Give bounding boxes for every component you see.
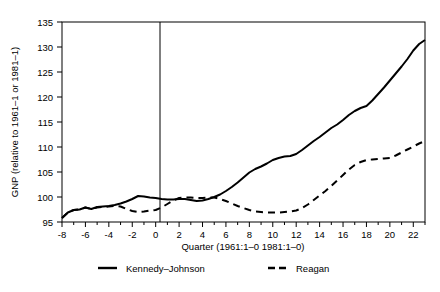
x-tick-label: 16 — [338, 229, 349, 240]
x-tick-label: 2 — [176, 229, 181, 240]
x-tick-label: -8 — [58, 229, 66, 240]
x-tick-label: 4 — [200, 229, 205, 240]
legend-label-reagan: Reagan — [296, 263, 329, 274]
y-tick-label: 135 — [37, 17, 53, 28]
y-tick-label: 110 — [38, 142, 53, 153]
y-tick-label: 130 — [37, 42, 53, 53]
y-tick-label: 125 — [37, 67, 53, 78]
x-tick-label: 8 — [247, 229, 252, 240]
x-tick-label: 20 — [385, 229, 396, 240]
x-tick-label: 10 — [267, 229, 278, 240]
y-tick-label: 100 — [37, 192, 53, 203]
x-tick-label: 6 — [223, 229, 228, 240]
y-tick-label: 105 — [37, 167, 53, 178]
y-tick-label: 115 — [38, 117, 53, 128]
x-tick-label: 14 — [314, 229, 325, 240]
x-tick-label: 18 — [361, 229, 372, 240]
x-tick-label: 0 — [153, 229, 158, 240]
x-tick-label: -6 — [81, 229, 89, 240]
y-axis-title: GNP (relative to 1961–1 or 1981–1) — [9, 47, 20, 197]
x-tick-label: -2 — [128, 229, 136, 240]
x-tick-label: 22 — [408, 229, 419, 240]
x-tick-label: -4 — [105, 229, 113, 240]
x-tick-label: 12 — [291, 229, 302, 240]
gnp-comparison-chart: 95 100 105 110 115 120 125 130 135 GNP (… — [0, 0, 440, 292]
y-tick-label: 95 — [42, 217, 53, 228]
y-tick-label: 120 — [37, 92, 53, 103]
legend-label-kennedy-johnson: Kennedy–Johnson — [126, 263, 205, 274]
x-axis-title: Quarter (1961:1–0 1981:1–0) — [181, 241, 304, 252]
